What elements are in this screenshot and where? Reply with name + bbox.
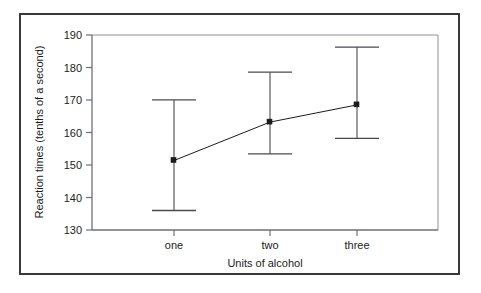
- y-tick-label-150: 150: [64, 159, 82, 171]
- data-point-two: [267, 119, 272, 124]
- y-axis-title: Reaction times (tenths of a second): [33, 45, 45, 218]
- y-tick-label-140: 140: [64, 192, 82, 204]
- figure-root: 130 140 150 160 170 180 190 one two thre…: [0, 0, 481, 293]
- error-bar-line-chart: 130 140 150 160 170 180 190 one two thre…: [21, 15, 458, 273]
- x-tick-label-two: two: [261, 239, 278, 251]
- x-axis-title: Units of alcohol: [227, 257, 302, 269]
- y-tick-label-190: 190: [64, 29, 82, 41]
- y-tick-label-180: 180: [64, 62, 82, 74]
- y-tick-label-170: 170: [64, 94, 82, 106]
- plot-area-border: [92, 35, 438, 230]
- error-bar-three: [335, 47, 379, 138]
- y-tick-marks: [86, 35, 92, 230]
- data-point-one: [171, 158, 176, 163]
- figure-frame: 130 140 150 160 170 180 190 one two thre…: [19, 13, 460, 275]
- error-bar-one: [152, 100, 196, 211]
- x-tick-label-three: three: [344, 239, 369, 251]
- y-tick-label-160: 160: [64, 127, 82, 139]
- error-bar-two: [248, 72, 292, 154]
- y-tick-label-130: 130: [64, 224, 82, 236]
- x-tick-marks: [174, 230, 357, 236]
- x-tick-label-one: one: [165, 239, 183, 251]
- series-line: [174, 105, 357, 161]
- data-point-three: [354, 102, 359, 107]
